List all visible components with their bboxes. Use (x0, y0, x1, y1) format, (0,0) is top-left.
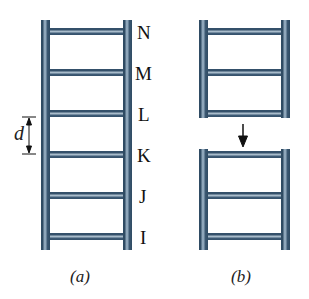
ladder-b-bottom-rung-2 (208, 192, 281, 199)
ladder-b-top-rung-2 (208, 69, 281, 76)
ladder-b-bottom-left-rail (199, 149, 208, 250)
ladder-b-bottom-right-rail (281, 149, 290, 250)
ladder-b-top-rung-3 (208, 110, 281, 117)
ladder-b-top-left-rail (199, 20, 208, 118)
annotations (0, 0, 309, 299)
down-arrow-icon (239, 124, 248, 147)
caption-b: (b) (231, 268, 251, 285)
ladder-b-top-rung-1 (208, 28, 281, 35)
spacing-arrow-icon (22, 117, 36, 154)
ladder-b-bottom-rung-1 (208, 151, 281, 158)
ladder-b-bottom-rung-3 (208, 233, 281, 240)
ladder-b-top-right-rail (281, 20, 290, 118)
